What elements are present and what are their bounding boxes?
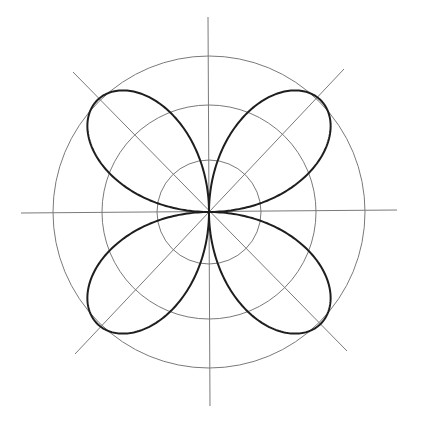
polar-rose-diagram xyxy=(0,0,423,436)
polar-plot-canvas xyxy=(0,0,423,436)
